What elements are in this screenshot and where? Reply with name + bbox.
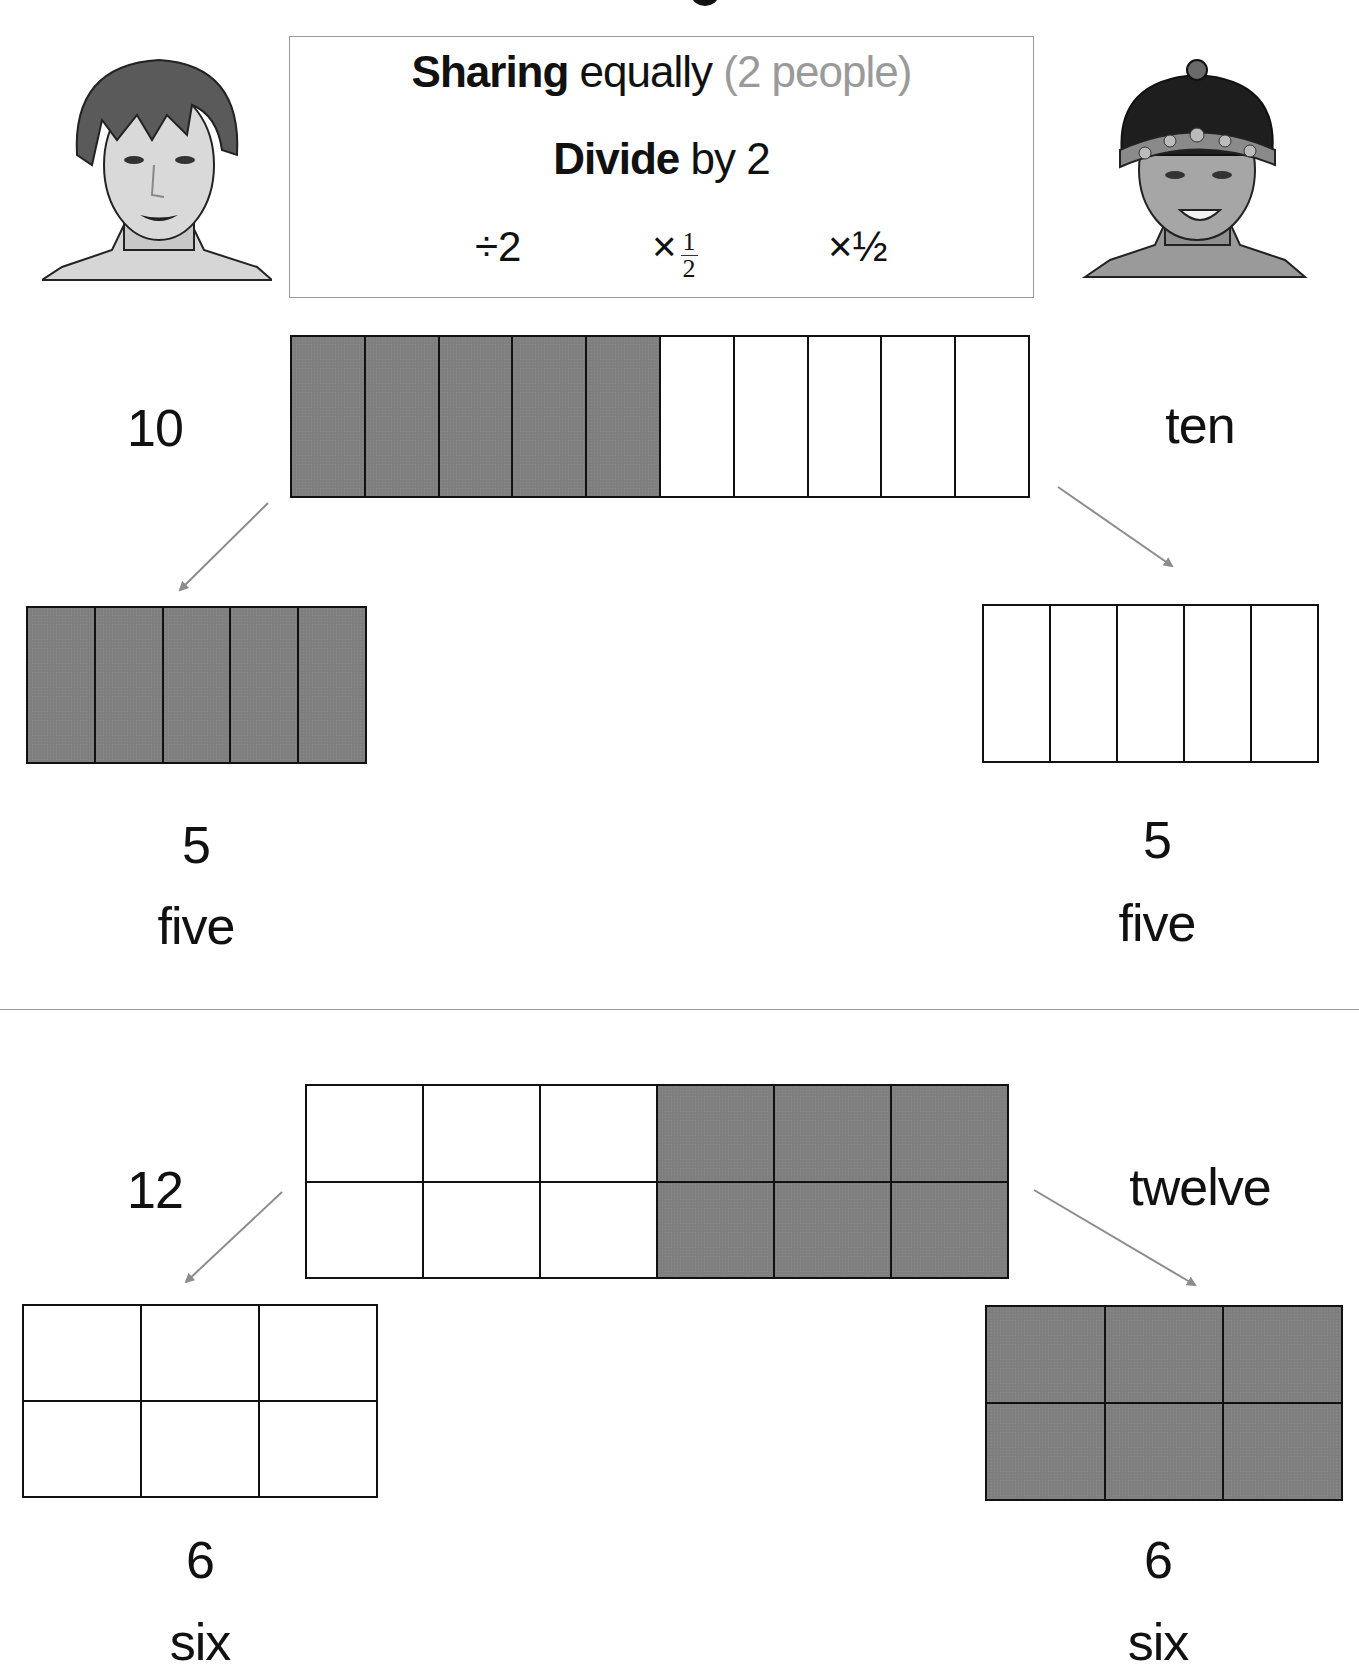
- people-note: (2 people): [723, 47, 911, 96]
- cell: [987, 1404, 1104, 1499]
- cell: [1252, 606, 1317, 761]
- cell: [96, 608, 162, 762]
- cell: [1185, 606, 1250, 761]
- right-five-word: five: [1087, 893, 1227, 953]
- cell: [424, 1086, 539, 1181]
- cell: [299, 608, 365, 762]
- left-six-word: six: [130, 1612, 270, 1672]
- ten-bar: [290, 335, 1030, 498]
- divide-by-two-op: ÷2: [475, 223, 521, 271]
- left-five-numeral: 5: [146, 815, 246, 875]
- fraction-one-half: 12: [681, 229, 698, 282]
- person-left-portrait-icon: [42, 45, 272, 285]
- cell: [735, 337, 807, 496]
- section-divider: [0, 1009, 1359, 1010]
- right-six-word: six: [1088, 1612, 1228, 1672]
- right-six-numeral: 6: [1108, 1530, 1208, 1590]
- cell: [1224, 1404, 1341, 1499]
- cell: [809, 337, 881, 496]
- right-five-numeral: 5: [1107, 810, 1207, 870]
- arrow-left-icon: [180, 503, 268, 590]
- ten-numeral: 10: [100, 398, 210, 458]
- cell: [541, 1086, 656, 1181]
- fraction-numerator: 1: [681, 229, 698, 256]
- cell: [28, 608, 94, 762]
- twelve-numeral: 12: [100, 1160, 210, 1220]
- left-six-numeral: 6: [150, 1530, 250, 1590]
- cell: [142, 1306, 258, 1400]
- cell: [987, 1307, 1104, 1402]
- left-five-bar: [26, 606, 367, 764]
- right-six-grid: [985, 1305, 1343, 1501]
- cell: [661, 337, 733, 496]
- cell: [142, 1402, 258, 1496]
- cell: [260, 1402, 376, 1496]
- cell: [440, 337, 512, 496]
- divide-word: Divide: [553, 134, 679, 183]
- cell: [892, 1183, 1007, 1278]
- person-right-portrait-icon: [1080, 45, 1310, 285]
- times-fraction-op: ×12: [652, 223, 698, 276]
- cell: [1118, 606, 1183, 761]
- times-sign: ×: [652, 223, 677, 270]
- cell: [775, 1086, 890, 1181]
- cell: [292, 337, 364, 496]
- ten-word: ten: [1130, 395, 1270, 455]
- cropped-title-glyph: [692, 0, 718, 6]
- title-box: Sharing equally (2 people) Divide by 2 ÷…: [289, 36, 1034, 298]
- cell: [366, 337, 438, 496]
- cell: [1106, 1404, 1223, 1499]
- times-half-op: ×½: [828, 223, 888, 271]
- arrow-right-icon: [1058, 487, 1172, 566]
- twelve-word: twelve: [1100, 1157, 1300, 1217]
- twelve-grid: [305, 1084, 1009, 1279]
- sharing-word: Sharing: [412, 47, 569, 96]
- cell: [307, 1183, 422, 1278]
- cell: [956, 337, 1028, 496]
- equally-word: equally: [568, 47, 723, 96]
- cell: [892, 1086, 1007, 1181]
- cell: [164, 608, 230, 762]
- left-six-grid: [22, 1304, 378, 1498]
- cell: [587, 337, 659, 496]
- cell: [24, 1402, 140, 1496]
- left-five-word: five: [126, 896, 266, 956]
- cell: [260, 1306, 376, 1400]
- cell: [424, 1183, 539, 1278]
- cell: [1051, 606, 1116, 761]
- cell: [775, 1183, 890, 1278]
- right-five-bar: [982, 604, 1319, 763]
- cell: [541, 1183, 656, 1278]
- cell: [658, 1183, 773, 1278]
- title-line-divide: Divide by 2: [290, 134, 1033, 184]
- by-two-text: by 2: [679, 134, 769, 183]
- cell: [513, 337, 585, 496]
- cell: [658, 1086, 773, 1181]
- cell: [882, 337, 954, 496]
- cell: [1224, 1307, 1341, 1402]
- fraction-denominator: 2: [681, 256, 698, 282]
- cell: [307, 1086, 422, 1181]
- cell: [231, 608, 297, 762]
- title-line-sharing: Sharing equally (2 people): [290, 47, 1033, 97]
- cell: [984, 606, 1049, 761]
- cell: [1106, 1307, 1223, 1402]
- cell: [24, 1306, 140, 1400]
